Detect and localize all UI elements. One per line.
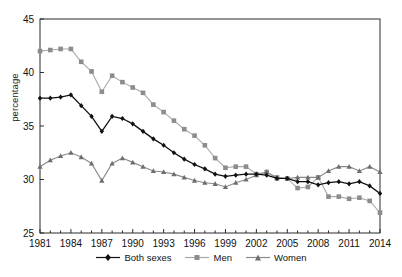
data-point	[378, 210, 383, 215]
legend-label-women: Women	[274, 252, 307, 263]
y-axis-tick-label: 25	[23, 228, 35, 239]
data-point	[120, 155, 125, 160]
data-point	[377, 169, 382, 174]
data-point	[223, 165, 228, 170]
legend-item-men: Men	[184, 252, 231, 263]
y-axis-tick-label: 45	[23, 14, 35, 25]
data-point	[347, 181, 351, 186]
data-point	[244, 164, 249, 169]
data-point	[151, 102, 156, 107]
data-point	[347, 196, 352, 201]
x-axis-tick-label: 1990	[122, 238, 145, 249]
data-point	[89, 161, 94, 166]
data-point	[203, 166, 207, 171]
data-point	[110, 73, 115, 78]
x-axis-tick-label: 2005	[276, 238, 299, 249]
x-axis-tick-label: 2008	[307, 238, 330, 249]
chart-legend: Both sexes Men Women	[0, 252, 402, 263]
x-axis-tick-label: 1993	[153, 238, 176, 249]
x-axis-tick-label: 1996	[183, 238, 206, 249]
data-point	[161, 110, 166, 115]
data-point	[357, 195, 362, 200]
data-point	[38, 49, 43, 54]
data-point	[69, 47, 74, 52]
data-point	[182, 157, 186, 162]
square-marker-icon	[184, 252, 210, 263]
data-point	[234, 173, 238, 178]
data-point	[295, 179, 299, 184]
series-men	[38, 47, 383, 215]
data-point	[192, 162, 196, 167]
data-point	[79, 60, 84, 65]
y-axis-tick-label: 40	[23, 67, 35, 78]
legend-label-both-sexes: Both sexes	[124, 252, 171, 263]
data-point	[357, 179, 361, 184]
data-point	[295, 186, 300, 191]
data-point	[213, 156, 218, 161]
data-point	[203, 143, 208, 148]
x-axis-tick-label: 2002	[245, 238, 268, 249]
data-point	[58, 47, 63, 52]
series-women	[37, 150, 382, 189]
data-point	[58, 95, 62, 100]
data-point	[130, 85, 135, 90]
data-point	[306, 185, 311, 190]
series-both-sexes	[38, 92, 382, 196]
data-point	[244, 172, 248, 177]
data-point	[68, 150, 73, 155]
triangle-marker-icon	[245, 252, 271, 263]
y-axis-tick-label: 35	[23, 121, 35, 132]
x-axis-tick-label: 1981	[29, 238, 52, 249]
data-point	[120, 116, 124, 121]
plot-area: 2530354045198119841987199019931996199920…	[0, 0, 402, 277]
data-point	[89, 69, 94, 74]
data-point	[100, 89, 105, 94]
legend-item-both-sexes: Both sexes	[95, 252, 171, 263]
data-point	[306, 179, 310, 184]
data-point	[48, 96, 52, 101]
data-point	[120, 80, 125, 85]
data-point	[141, 91, 146, 96]
y-axis-title: percentage	[9, 58, 20, 138]
data-point	[110, 161, 115, 166]
data-point	[336, 194, 341, 199]
data-point	[38, 96, 42, 101]
data-point	[37, 164, 42, 169]
data-point	[223, 174, 227, 179]
data-point	[367, 199, 372, 204]
diamond-marker-icon	[95, 252, 121, 263]
x-axis-tick-label: 1999	[214, 238, 237, 249]
data-point	[233, 164, 238, 169]
data-point	[316, 182, 320, 187]
legend-label-men: Men	[213, 252, 231, 263]
data-point	[213, 172, 217, 177]
data-point	[192, 133, 197, 138]
x-axis-tick-label: 2014	[369, 238, 392, 249]
data-point	[182, 127, 187, 132]
x-axis-tick-label: 1987	[91, 238, 114, 249]
x-axis-tick-label: 1984	[60, 238, 83, 249]
data-point	[337, 179, 341, 184]
data-point	[326, 194, 331, 199]
data-point	[48, 48, 53, 53]
plot-frame	[40, 19, 380, 233]
data-point	[326, 180, 330, 185]
x-axis-tick-label: 2011	[338, 238, 360, 249]
data-point	[367, 164, 372, 169]
y-axis-tick-label: 30	[23, 174, 35, 185]
legend-item-women: Women	[245, 252, 307, 263]
data-point	[172, 118, 177, 123]
line-chart: 2530354045198119841987199019931996199920…	[0, 0, 402, 277]
